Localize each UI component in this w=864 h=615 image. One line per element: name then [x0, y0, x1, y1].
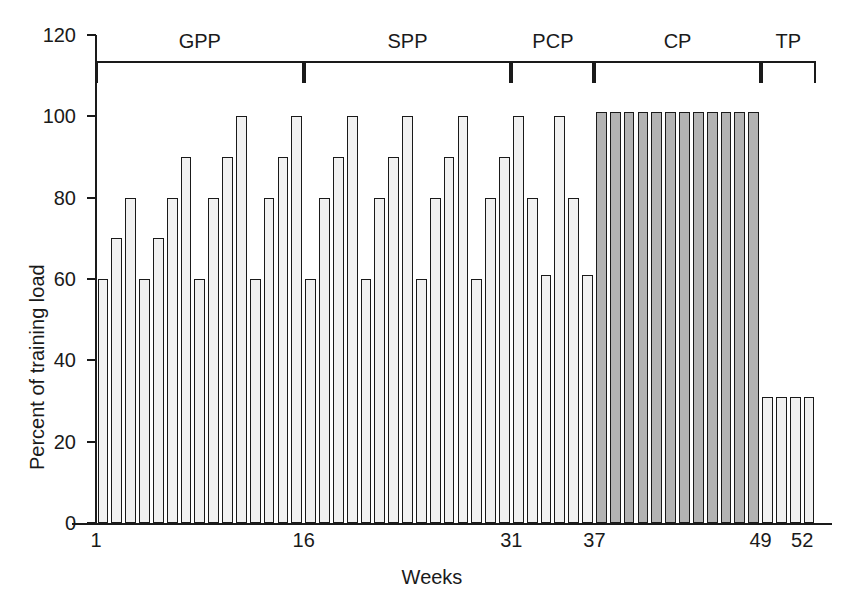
bar	[485, 198, 496, 523]
bar	[541, 275, 552, 523]
bar	[624, 112, 635, 523]
x-axis-line	[72, 523, 832, 525]
y-tick-mark	[87, 115, 96, 117]
bar	[651, 112, 662, 523]
x-tick-label: 1	[72, 530, 120, 550]
y-tick-label: 100	[16, 106, 76, 126]
bar	[596, 112, 607, 523]
x-axis-title: Weeks	[0, 566, 864, 589]
y-tick-mark	[87, 34, 96, 36]
y-tick-mark	[87, 522, 96, 524]
bar	[444, 157, 455, 523]
bar	[416, 279, 427, 523]
x-tick-label: 37	[570, 530, 618, 550]
bar	[278, 157, 289, 523]
plot-area	[96, 35, 816, 523]
y-tick-mark	[87, 197, 96, 199]
bar	[236, 116, 247, 523]
y-tick-mark	[87, 278, 96, 280]
bar	[388, 157, 399, 523]
bar	[250, 279, 261, 523]
bar	[610, 112, 621, 523]
bar	[513, 116, 524, 523]
bar	[319, 198, 330, 523]
bar	[804, 397, 815, 523]
y-tick-label: 80	[16, 188, 76, 208]
bar	[748, 112, 759, 523]
bar	[707, 112, 718, 523]
bar	[665, 112, 676, 523]
bar	[111, 238, 122, 523]
bar	[430, 198, 441, 523]
bar	[499, 157, 510, 523]
bar	[347, 116, 358, 523]
bar	[361, 279, 372, 523]
y-tick-label: 20	[16, 432, 76, 452]
bar	[181, 157, 192, 523]
bar	[194, 279, 205, 523]
bar	[776, 397, 787, 523]
bar	[582, 275, 593, 523]
x-tick-label: 52	[778, 530, 826, 550]
bar	[264, 198, 275, 523]
y-tick-mark	[87, 441, 96, 443]
bar	[638, 112, 649, 523]
bar	[153, 238, 164, 523]
bar	[333, 157, 344, 523]
bar	[125, 198, 136, 523]
bar-series	[96, 35, 816, 523]
bar	[762, 397, 773, 523]
bar	[527, 198, 538, 523]
bar	[98, 279, 109, 523]
bar	[568, 198, 579, 523]
y-tick-label: 40	[16, 350, 76, 370]
bar	[790, 397, 801, 523]
bar	[374, 198, 385, 523]
x-tick-label: 16	[280, 530, 328, 550]
bar	[305, 279, 316, 523]
bar	[471, 279, 482, 523]
bar	[402, 116, 413, 523]
bar	[208, 198, 219, 523]
bar	[734, 112, 745, 523]
bar	[693, 112, 704, 523]
chart-figure: Percent of training load GPPSPPPCPCPTP 0…	[0, 0, 864, 615]
bar	[291, 116, 302, 523]
x-tick-label: 31	[487, 530, 535, 550]
bar	[167, 198, 178, 523]
y-tick-label: 0	[16, 513, 76, 533]
bar	[222, 157, 233, 523]
y-tick-mark	[87, 359, 96, 361]
bar	[458, 116, 469, 523]
y-tick-label: 120	[16, 25, 76, 45]
bar	[721, 112, 732, 523]
bar	[139, 279, 150, 523]
y-tick-label: 60	[16, 269, 76, 289]
bar	[679, 112, 690, 523]
bar	[554, 116, 565, 523]
